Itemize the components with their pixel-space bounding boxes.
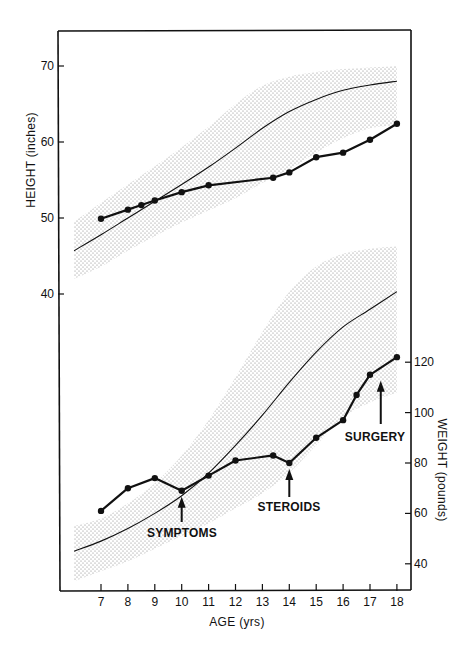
- svg-text:50: 50: [41, 211, 55, 225]
- data-point: [205, 472, 211, 478]
- svg-text:18: 18: [390, 595, 404, 609]
- svg-text:120: 120: [414, 355, 434, 369]
- data-point: [232, 457, 238, 463]
- svg-text:11: 11: [202, 595, 215, 609]
- data-point: [394, 354, 400, 360]
- svg-text:13: 13: [256, 595, 270, 609]
- data-point: [98, 216, 104, 222]
- x-axis-title: AGE (yrs): [209, 615, 264, 629]
- data-point: [340, 417, 346, 423]
- svg-text:SURGERY: SURGERY: [345, 430, 405, 444]
- data-point: [138, 202, 144, 208]
- data-point: [340, 149, 346, 155]
- svg-text:100: 100: [414, 406, 434, 420]
- svg-text:60: 60: [41, 135, 55, 149]
- data-point: [313, 154, 319, 160]
- data-point: [205, 182, 211, 188]
- growth-chart: 789101112131415161718 40506070 406080100…: [0, 0, 468, 648]
- data-point: [367, 137, 373, 143]
- svg-text:12: 12: [229, 595, 243, 609]
- svg-text:17: 17: [363, 595, 377, 609]
- data-point: [313, 435, 319, 441]
- svg-text:STEROIDS: STEROIDS: [258, 500, 321, 514]
- data-point: [353, 392, 359, 398]
- svg-text:15: 15: [310, 595, 324, 609]
- data-point: [98, 508, 104, 514]
- svg-text:9: 9: [151, 595, 158, 609]
- data-point: [286, 169, 292, 175]
- data-point: [394, 121, 400, 127]
- data-point: [367, 372, 373, 378]
- svg-text:70: 70: [41, 59, 55, 73]
- x-axis-ticks: 789101112131415161718: [98, 584, 404, 609]
- svg-text:40: 40: [414, 557, 428, 571]
- height-axis-title: HEIGHT (inches): [24, 112, 38, 208]
- svg-text:SYMPTOMS: SYMPTOMS: [147, 526, 217, 540]
- weight-axis-title: WEIGHT (pounds): [435, 419, 449, 522]
- svg-text:60: 60: [414, 506, 428, 520]
- data-point: [125, 485, 131, 491]
- svg-text:8: 8: [125, 595, 132, 609]
- svg-text:16: 16: [336, 595, 350, 609]
- height-axis-ticks: 40506070: [41, 59, 64, 301]
- height-normal-range-band: [74, 66, 397, 279]
- data-point: [270, 452, 276, 458]
- data-point: [152, 475, 158, 481]
- svg-text:10: 10: [175, 595, 189, 609]
- svg-text:80: 80: [414, 456, 428, 470]
- svg-text:7: 7: [98, 595, 105, 609]
- svg-text:14: 14: [283, 595, 297, 609]
- data-point: [179, 488, 185, 494]
- data-point: [125, 206, 131, 212]
- svg-text:40: 40: [41, 287, 55, 301]
- data-point: [179, 189, 185, 195]
- data-point: [286, 460, 292, 466]
- data-point: [270, 175, 276, 181]
- weight-axis-ticks: 406080100120: [405, 355, 434, 571]
- data-point: [152, 197, 158, 203]
